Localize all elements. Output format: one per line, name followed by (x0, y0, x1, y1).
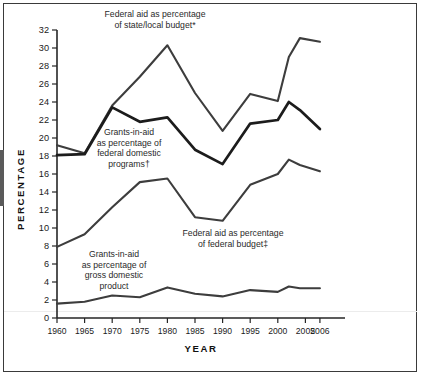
x-axis-tick-labels: 1960196519701975198019851990199520002005… (47, 326, 329, 336)
x-axis-title: YEAR (184, 343, 217, 354)
plot-area: 02468101214161820222426283032 1960196519… (0, 0, 423, 377)
x-axis-tick-label: 1960 (47, 326, 66, 336)
y-axis-tick-label: 28 (39, 61, 49, 71)
y-axis-tick-label: 24 (39, 97, 49, 107)
y-axis-tick-label: 0 (44, 313, 49, 323)
y-axis-tick-label: 12 (39, 205, 49, 215)
y-axis-tick-labels: 02468101214161820222426283032 (39, 25, 49, 323)
y-axis-tick-label: 26 (39, 79, 49, 89)
data-series-group (57, 38, 320, 304)
y-axis-tick-label: 22 (39, 115, 49, 125)
y-axis-tick-label: 18 (39, 151, 49, 161)
series-line-2 (57, 160, 320, 247)
line-chart: 02468101214161820222426283032 1960196519… (0, 0, 423, 377)
y-axis-tick-label: 16 (39, 169, 49, 179)
y-axis-tick-label: 32 (39, 25, 49, 35)
y-axis-tick-label: 4 (44, 277, 49, 287)
y-axis-tick-label: 10 (39, 223, 49, 233)
y-axis-title: PERCENTAGE (15, 148, 26, 230)
y-axis-tick-label: 20 (39, 133, 49, 143)
x-axis-tick-label: 1995 (241, 326, 260, 336)
x-axis-tick-label: 1970 (103, 326, 122, 336)
y-axis-tick-label: 14 (39, 187, 49, 197)
x-axis-tick-label: 2000 (268, 326, 287, 336)
x-axis-tick-label: 1990 (213, 326, 232, 336)
figure-container: 02468101214161820222426283032 1960196519… (0, 0, 423, 377)
series-line-3 (57, 287, 320, 304)
x-axis-tick-label: 2006 (310, 326, 329, 336)
x-axis-tick-label: 1965 (75, 326, 94, 336)
x-axis-tick-label: 1975 (130, 326, 149, 336)
x-axis-tick-label: 1985 (185, 326, 204, 336)
y-axis-tick-label: 30 (39, 43, 49, 53)
series-line-1 (57, 102, 320, 164)
y-axis-tick-label: 2 (44, 295, 49, 305)
y-axis-tick-label: 6 (44, 259, 49, 269)
y-axis-tick-label: 8 (44, 241, 49, 251)
x-axis-tick-label: 1980 (158, 326, 177, 336)
